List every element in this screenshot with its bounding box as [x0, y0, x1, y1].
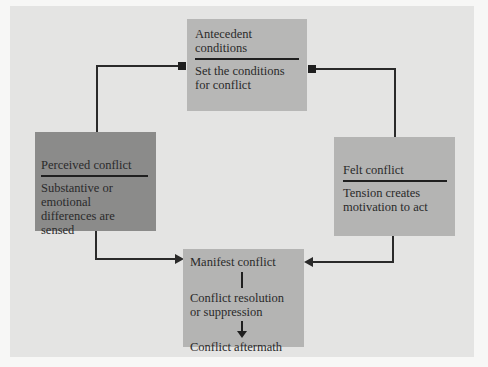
node-title: Perceived conflict: [41, 158, 148, 172]
node-perceived-conflict: Perceived conflict Substantive or emotio…: [35, 132, 156, 231]
connector-antecedent-to-felt-vertical: [394, 68, 396, 137]
step-arrow-down-icon: [241, 321, 243, 331]
title-divider: [195, 58, 299, 60]
node-felt-conflict: Felt conflict Tension creates motivation…: [334, 137, 455, 236]
connector-felt-to-manifest-vertical: [392, 236, 394, 263]
arrow-left-icon: [304, 257, 313, 267]
node-description: Set the conditions for conflict: [195, 64, 291, 92]
connector-felt-to-manifest-horizontal: [312, 261, 394, 263]
manifest-step-1: Manifest conflict: [190, 255, 298, 269]
connector-antecedent-to-felt-horizontal: [312, 68, 396, 70]
connector-antecedent-to-perceived-horizontal: [96, 65, 182, 67]
title-divider: [343, 180, 447, 182]
node-description: Tension creates motivation to act: [343, 186, 443, 214]
arrow-down-icon: [237, 331, 247, 338]
connector-anchor-left: [178, 62, 186, 70]
node-antecedent-conditions: Antecedent conditions Set the conditions…: [187, 19, 307, 111]
title-divider: [41, 175, 148, 177]
manifest-step-2: Conflict resolution or suppression: [190, 291, 290, 319]
node-title: Antecedent conditions: [195, 27, 275, 55]
connector-perceived-to-manifest-horizontal: [95, 258, 177, 260]
node-description: Substantive or emotional differences are…: [41, 181, 149, 237]
manifest-step-3: Conflict aftermath: [190, 340, 298, 354]
connector-anchor-right: [308, 65, 316, 73]
connector-antecedent-to-perceived-vertical: [96, 65, 98, 132]
step-connector-line: [241, 272, 243, 288]
node-manifest-conflict: Manifest conflict Conflict resolution or…: [183, 249, 304, 347]
node-title: Felt conflict: [343, 163, 447, 177]
